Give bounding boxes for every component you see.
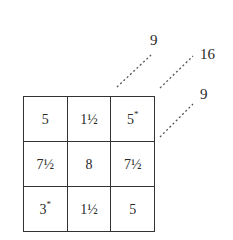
diagonal-sum-label-2: 16 bbox=[200, 46, 215, 63]
grid-cell: 5* bbox=[111, 97, 155, 142]
grid-cell: 8 bbox=[67, 142, 111, 187]
number-grid: 5 1½ 5* 7½ 8 7½ 3* 1½ 5 bbox=[23, 96, 155, 232]
grid-row-2: 7½ 8 7½ bbox=[24, 142, 155, 187]
grid-cell: 7½ bbox=[24, 142, 68, 187]
diagonal-line-main bbox=[160, 56, 193, 88]
grid-row-1: 5 1½ 5* bbox=[24, 97, 155, 142]
diagonal-line-middle-row bbox=[160, 104, 193, 137]
grid-cell: 5 bbox=[24, 97, 68, 142]
grid-row-3: 3* 1½ 5 bbox=[24, 187, 155, 232]
diagonal-sum-label-3: 9 bbox=[200, 86, 208, 103]
grid-cell: 1½ bbox=[67, 187, 111, 232]
diagonal-line-top-row bbox=[117, 55, 151, 87]
grid-cell: 1½ bbox=[67, 97, 111, 142]
grid-cell: 5 bbox=[111, 187, 155, 232]
grid-cell: 3* bbox=[24, 187, 68, 232]
grid-cell: 7½ bbox=[111, 142, 155, 187]
diagonal-sum-label-1: 9 bbox=[150, 32, 158, 49]
